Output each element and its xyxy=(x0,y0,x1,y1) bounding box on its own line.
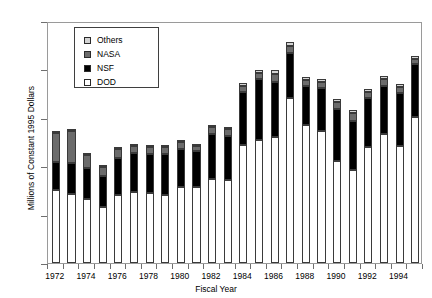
bar-segment-others xyxy=(380,76,388,79)
legend-label-nsf: NSF xyxy=(97,64,114,73)
x-tick-label: 1990 xyxy=(327,271,346,281)
bar-segment-nasa xyxy=(83,155,91,169)
y-axis-title: Millions of Constant 1995 Dollars xyxy=(26,63,36,233)
bar-segment-others xyxy=(364,89,372,92)
y-tick-mark xyxy=(41,22,47,23)
x-tick-label: 1988 xyxy=(295,271,314,281)
bar-segment-dod xyxy=(67,194,75,263)
bar-segment-others xyxy=(114,147,122,149)
x-tick-mark xyxy=(281,264,282,269)
bar-segment-nsf xyxy=(380,86,388,134)
bar-segment-dod xyxy=(411,117,419,263)
bar-segment-dod xyxy=(192,187,200,263)
bar-1981 xyxy=(192,21,200,263)
bar-segment-nsf xyxy=(317,88,325,132)
bar-segment-nsf xyxy=(396,93,404,146)
x-tick-label: 1982 xyxy=(202,271,221,281)
bar-1991 xyxy=(349,21,357,263)
x-tick-label: 1984 xyxy=(233,271,252,281)
bar-segment-dod xyxy=(177,187,185,263)
bar-segment-nsf xyxy=(239,92,247,145)
bar-segment-nasa xyxy=(114,149,122,159)
legend-item-nsf: NSF xyxy=(84,61,158,75)
x-tick-mark xyxy=(406,264,407,269)
y-tick-mark xyxy=(41,70,47,71)
legend-swatch-nasa-icon xyxy=(84,51,91,58)
bar-segment-nasa xyxy=(161,147,169,154)
bar-segment-dod xyxy=(317,131,325,263)
bar-segment-others xyxy=(83,153,91,155)
legend-item-nasa: NASA xyxy=(84,47,158,61)
bar-segment-dod xyxy=(271,137,279,263)
bar-segment-nsf xyxy=(333,109,341,161)
x-tick-label: 1974 xyxy=(77,271,96,281)
bar-segment-nasa xyxy=(349,113,357,121)
bar-segment-nasa xyxy=(239,86,247,92)
bar-segment-nasa xyxy=(146,147,154,154)
bar-segment-nsf xyxy=(177,149,185,188)
x-tick-mark xyxy=(344,264,345,269)
x-tick-mark xyxy=(188,264,189,269)
bar-segment-dod xyxy=(161,195,169,263)
bar-segment-dod xyxy=(208,179,216,263)
bar-segment-nasa xyxy=(286,46,294,53)
bar-segment-dod xyxy=(396,146,404,263)
bar-segment-others xyxy=(224,127,232,130)
bar-segment-dod xyxy=(333,161,341,263)
x-tick-mark xyxy=(125,264,126,269)
bar-segment-nsf xyxy=(349,121,357,170)
x-axis-title: Fiscal Year xyxy=(0,284,432,294)
bar-segment-nsf xyxy=(83,168,91,199)
x-tick-mark xyxy=(203,264,204,269)
bar-1982 xyxy=(208,21,216,263)
bar-segment-nsf xyxy=(192,151,200,187)
bar-segment-nsf xyxy=(130,153,138,193)
bar-segment-nasa xyxy=(255,73,263,79)
bar-1979 xyxy=(161,21,169,263)
legend-label-nasa: NASA xyxy=(97,50,120,59)
bar-segment-nsf xyxy=(52,162,60,190)
bar-segment-others xyxy=(146,145,154,147)
bar-segment-nsf xyxy=(411,64,419,117)
bar-1989 xyxy=(317,21,325,263)
x-tick-mark xyxy=(313,264,314,269)
bar-segment-dod xyxy=(302,125,310,263)
x-tick-mark xyxy=(110,264,111,269)
bar-1988 xyxy=(302,21,310,263)
bar-segment-nasa xyxy=(130,146,138,153)
bar-segment-nasa xyxy=(396,87,404,93)
bar-segment-dod xyxy=(364,147,372,263)
bar-1992 xyxy=(364,21,372,263)
stacked-bar-chart: 050100150200250 197219741976197819801982… xyxy=(0,0,432,298)
bar-1995 xyxy=(411,21,419,263)
bar-segment-nsf xyxy=(286,53,294,98)
x-tick-mark xyxy=(297,264,298,269)
bar-segment-nasa xyxy=(67,131,75,163)
legend-swatch-nsf-icon xyxy=(84,65,91,72)
y-tick-mark xyxy=(41,167,47,168)
bar-segment-nsf xyxy=(208,134,216,179)
x-tick-mark xyxy=(219,264,220,269)
bar-1985 xyxy=(255,21,263,263)
bar-segment-nasa xyxy=(333,102,341,109)
bar-segment-others xyxy=(239,83,247,86)
bar-segment-dod xyxy=(239,145,247,263)
bar-segment-others xyxy=(161,145,169,147)
bar-segment-others xyxy=(411,56,419,59)
bar-segment-dod xyxy=(224,180,232,263)
bar-segment-dod xyxy=(99,207,107,263)
legend-swatch-others-icon xyxy=(84,37,91,44)
bar-segment-others xyxy=(317,79,325,82)
x-tick-mark xyxy=(94,264,95,269)
bar-segment-others xyxy=(130,144,138,146)
bar-segment-nsf xyxy=(255,79,263,140)
x-tick-mark xyxy=(172,264,173,269)
bar-1972 xyxy=(52,21,60,263)
bar-segment-others xyxy=(255,70,263,73)
y-tick-mark xyxy=(41,119,47,120)
x-tick-label: 1976 xyxy=(108,271,127,281)
bar-segment-dod xyxy=(349,170,357,263)
bar-segment-nasa xyxy=(364,92,372,99)
bar-segment-nsf xyxy=(224,136,232,180)
bar-segment-nsf xyxy=(146,154,154,194)
